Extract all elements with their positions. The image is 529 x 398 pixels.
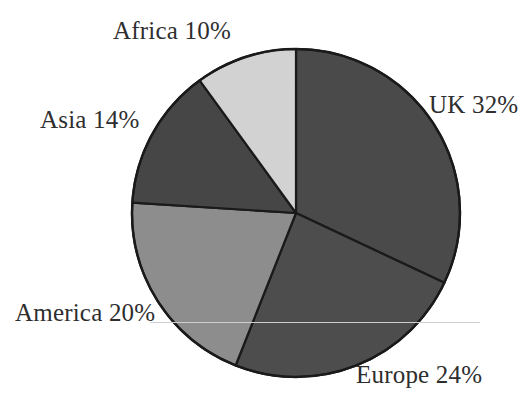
pie-chart-figure: Africa 10% Asia 14% America 20% Europe 2… <box>0 0 529 398</box>
pie-chart-canvas <box>0 0 529 398</box>
pie-slice-group <box>132 49 460 377</box>
pie-label-europe: Europe 24% <box>356 362 482 387</box>
pie-label-asia: Asia 14% <box>40 107 140 132</box>
america-leader-line <box>150 322 480 323</box>
pie-label-africa: Africa 10% <box>113 18 231 43</box>
pie-label-uk: UK 32% <box>429 92 518 117</box>
pie-label-america: America 20% <box>15 300 155 325</box>
